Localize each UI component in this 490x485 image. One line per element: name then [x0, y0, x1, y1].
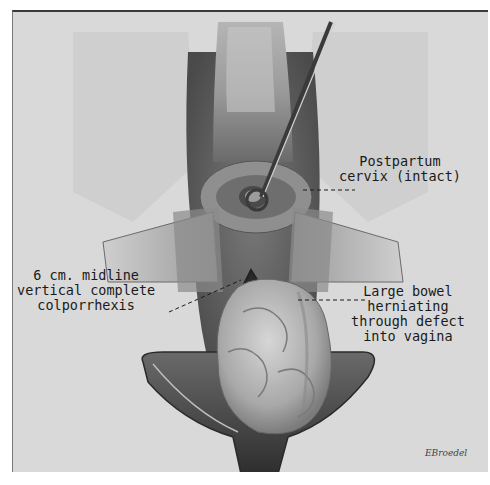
label-bowel-line3: through defect [351, 314, 465, 329]
drape-right [303, 32, 428, 222]
label-bowel: Large bowel herniating through defect in… [351, 284, 465, 344]
drape-left [73, 32, 198, 222]
label-cervix: Postpartum cervix (intact) [339, 154, 461, 184]
label-cervix-line1: Postpartum [339, 154, 461, 169]
herniated-bowel [217, 279, 331, 434]
label-colporrhexis-line1: 6 cm. midline [17, 268, 155, 283]
illustration-plate: Postpartum cervix (intact) 6 cm. midline… [12, 10, 488, 472]
artist-signature: EBroedel [425, 448, 467, 458]
label-colporrhexis-line3: colporrhexis [17, 298, 155, 313]
label-bowel-line2: herniating [351, 299, 465, 314]
label-bowel-line4: into vagina [351, 329, 465, 344]
label-bowel-line1: Large bowel [351, 284, 465, 299]
surgical-illustration [13, 12, 488, 472]
label-cervix-line2: cervix (intact) [339, 169, 461, 184]
label-colporrhexis-line2: vertical complete [17, 283, 155, 298]
label-colporrhexis: 6 cm. midline vertical complete colporrh… [17, 268, 155, 313]
